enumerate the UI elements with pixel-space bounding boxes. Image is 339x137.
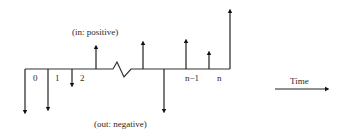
period-label-1: 1 [55, 74, 60, 83]
period-label-n: n [217, 74, 222, 83]
outflow-annotation: (out: negative) [94, 120, 147, 129]
inflow-annotation: (in: positive) [72, 28, 118, 37]
period-label-2: 2 [80, 74, 85, 83]
period-label-n-minus-1: n−1 [185, 74, 199, 83]
cash-flow-diagram [0, 0, 339, 137]
time-axis-label: Time [290, 77, 309, 86]
period-label-0: 0 [33, 74, 38, 83]
